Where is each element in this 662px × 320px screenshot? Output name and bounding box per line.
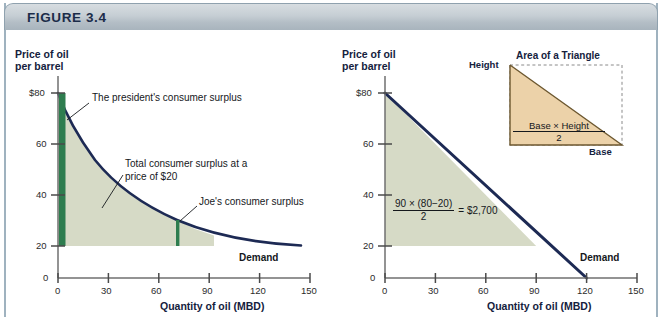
- y-axis-title-right: Price of oil per barrel: [342, 48, 396, 72]
- joes-surplus-annotation: Joe's consumer surplus: [199, 196, 304, 209]
- x-tick-label-150: 150: [301, 285, 317, 296]
- x-tick-label-90: 90: [529, 285, 540, 296]
- surplus-area-formula: 90 × (80−20) 2 = $2,700: [393, 198, 497, 223]
- chart-left: Price of oil per barrel $80 60 40 20 0 0…: [5, 30, 332, 317]
- x-tick-label-30: 30: [101, 285, 112, 296]
- x-tick-label-150: 150: [628, 285, 644, 296]
- x-tick-label-0: 0: [382, 285, 387, 296]
- y-axis-title-left: Price of oil per barrel: [15, 48, 69, 72]
- inset-formula-numerator: Base × Height: [513, 120, 605, 132]
- presidents-surplus-leader: [67, 103, 89, 120]
- formula-fraction: 90 × (80−20) 2: [393, 198, 454, 223]
- formula-numerator: 90 × (80−20): [393, 198, 454, 211]
- x-tick-label-90: 90: [202, 285, 213, 296]
- y-tick-label-80: $80: [356, 87, 372, 98]
- total-surplus-annotation: Total consumer surplus at a price of $20: [125, 158, 247, 183]
- inset-area-formula: Base × Height 2: [513, 120, 605, 143]
- figure-label: FIGURE 3.4: [27, 10, 107, 25]
- x-tick-label-120: 120: [577, 285, 593, 296]
- chart-right: Price of oil per barrel $80 60 40 20 0 0…: [332, 30, 659, 317]
- x-tick-label-30: 30: [428, 285, 439, 296]
- formula-denominator: 2: [393, 211, 454, 223]
- y-tick-label-60: 60: [363, 138, 374, 149]
- joes-surplus-leader: [180, 206, 197, 221]
- x-tick-label-60: 60: [478, 285, 489, 296]
- x-tick-label-60: 60: [151, 285, 162, 296]
- joes-consumer-surplus-bar: [176, 220, 179, 246]
- y-tick-label-80: $80: [29, 87, 45, 98]
- presidents-surplus-annotation: The president's consumer surplus: [92, 92, 242, 105]
- y-tick-label-40: 40: [36, 189, 47, 200]
- y-tick-label-60: 60: [36, 138, 47, 149]
- demand-curve-label-right: Demand: [580, 252, 619, 263]
- y-tick-label-40: 40: [363, 189, 374, 200]
- chart-right-plot: [332, 30, 659, 317]
- figure-header-bar: FIGURE 3.4: [4, 3, 658, 30]
- y-tick-label-0: 0: [43, 272, 48, 283]
- x-tick-label-0: 0: [55, 285, 60, 296]
- y-tick-label-20: 20: [36, 240, 47, 251]
- y-tick-label-20: 20: [363, 240, 374, 251]
- presidents-consumer-surplus-bar: [59, 93, 66, 246]
- inset-base-label: Base: [589, 146, 612, 157]
- inset-formula-denominator: 2: [513, 132, 605, 143]
- x-tick-label-120: 120: [250, 285, 266, 296]
- demand-curve-label-left: Demand: [239, 252, 278, 263]
- x-axis-title-left: Quantity of oil (MBD): [160, 300, 264, 312]
- inset-height-label: Height: [469, 59, 499, 70]
- formula-result: = $2,700: [458, 205, 497, 216]
- x-axis-title-right: Quantity of oil (MBD): [487, 300, 591, 312]
- y-tick-label-0: 0: [370, 272, 375, 283]
- inset-title: Area of a Triangle: [516, 50, 600, 61]
